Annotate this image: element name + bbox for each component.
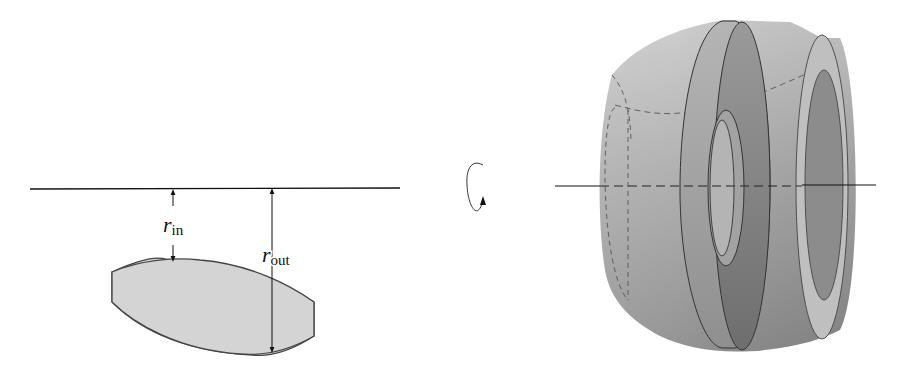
right-panel-solid <box>555 20 876 352</box>
left-panel: rin rout <box>30 188 400 355</box>
plane-region-outline <box>112 259 314 354</box>
r-in-label: rin <box>163 212 184 238</box>
diagram-canvas: rin rout <box>0 0 901 372</box>
axis-of-rotation-left <box>30 188 400 189</box>
rotation-arrow-icon <box>467 163 486 211</box>
washer-hole <box>710 120 734 256</box>
